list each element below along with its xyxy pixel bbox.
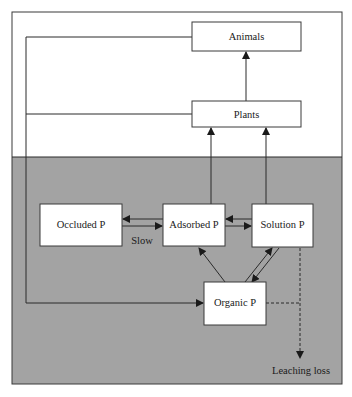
- node-organic-p-label: Organic P: [214, 297, 256, 308]
- node-plants-label: Plants: [234, 109, 260, 120]
- leaching-loss-label: Leaching loss: [272, 365, 330, 376]
- slow-label: Slow: [131, 235, 153, 246]
- node-adsorbed-p: Adsorbed P: [163, 204, 225, 246]
- node-adsorbed-p-label: Adsorbed P: [169, 219, 218, 230]
- node-animals-label: Animals: [229, 31, 265, 42]
- node-occluded-p-label: Occluded P: [57, 219, 106, 230]
- soil-region: [12, 157, 342, 384]
- node-plants: Plants: [192, 101, 301, 127]
- node-organic-p: Organic P: [204, 282, 266, 325]
- node-animals: Animals: [192, 22, 301, 51]
- node-solution-p: Solution P: [252, 204, 313, 247]
- node-occluded-p: Occluded P: [40, 204, 122, 246]
- phosphorus-cycle-diagram: Animals Plants Occluded P Adsorbed P Sol…: [0, 0, 352, 397]
- node-solution-p-label: Solution P: [260, 219, 304, 230]
